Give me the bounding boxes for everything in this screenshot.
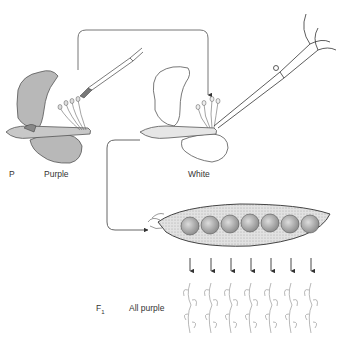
transfer-connector-bottom [107, 140, 148, 230]
f1-plants [184, 283, 318, 333]
plant [305, 283, 318, 333]
f1-subscript: 1 [101, 309, 104, 315]
plant [225, 283, 238, 333]
white-flower-label: White [188, 169, 210, 179]
plant [245, 283, 258, 333]
f1-result-label: All purple [129, 303, 164, 313]
offspring-arrows [190, 258, 311, 271]
plant [265, 283, 278, 333]
pea-pod [148, 204, 330, 246]
plant [184, 283, 197, 333]
parent-generation-label: P [9, 169, 15, 179]
purple-flower-label: Purple [44, 169, 69, 179]
plant [285, 283, 298, 333]
scissors [214, 14, 336, 128]
purple-flower [6, 71, 91, 163]
plant [205, 283, 218, 333]
white-flower [140, 67, 228, 162]
paintbrush [80, 48, 143, 98]
f1-generation-label: F1 [96, 303, 105, 315]
